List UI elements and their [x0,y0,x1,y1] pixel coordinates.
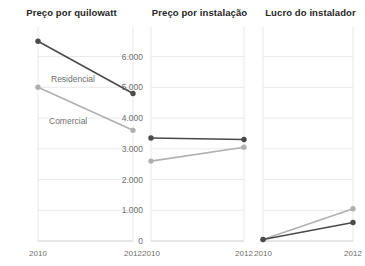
x-axis-tick-label: 2010 [29,249,47,258]
data-point-comercial [35,85,40,90]
data-point-comercial [130,128,135,133]
y-axis-tick-label: 3.000 [111,144,143,154]
data-point-residencial [35,39,40,44]
chart-panel-2: Preço por instalação20102012 [143,0,256,266]
data-point-comercial [350,206,355,211]
chart-panel-3: Lucro do instalador20102012 [256,0,365,266]
x-axis-tick-label: 2012 [235,249,253,258]
y-axis-tick-label: 2.000 [111,175,143,185]
series-label-residencial: Residencial [50,74,96,84]
y-axis-tick-label: 0 [111,236,143,246]
panel-plot-area [143,0,256,266]
x-axis-tick-label: 2012 [344,249,362,258]
y-axis-tick-label: 1.000 [111,205,143,215]
series-line-comercial [263,209,353,240]
panel-plot-area [0,0,143,266]
y-axis-tick-label: 4.000 [111,113,143,123]
series-label-comercial: Comercial [48,116,88,126]
x-axis-tick-label: 2010 [142,249,160,258]
data-point-residencial [260,237,265,242]
data-point-comercial [241,145,246,150]
data-point-residencial [148,135,153,140]
series-line-comercial [151,147,244,161]
data-point-residencial [350,220,355,225]
panel-plot-area [256,0,365,266]
x-axis-tick-label: 2010 [254,249,272,258]
series-line-residencial [263,223,353,240]
series-line-residencial [151,138,244,140]
chart-panel-1: Preço por quilowatt01.0002.0003.0004.000… [0,0,143,266]
small-multiples-chart-figure: Preço por quilowatt01.0002.0003.0004.000… [0,0,365,266]
y-axis-tick-label: 5.000 [111,82,143,92]
data-point-residencial [241,137,246,142]
y-axis-tick-label: 6.000 [111,52,143,62]
x-axis-tick-label: 2012 [124,249,142,258]
data-point-comercial [148,158,153,163]
